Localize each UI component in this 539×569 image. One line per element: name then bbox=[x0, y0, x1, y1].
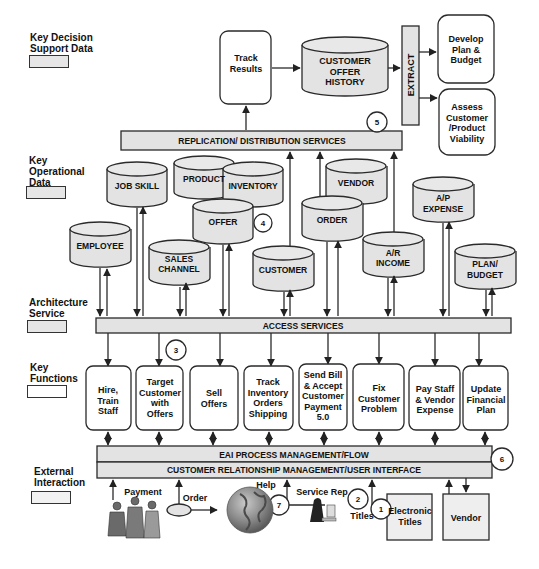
customers-people-icon bbox=[108, 497, 160, 538]
service-rep-icon bbox=[310, 498, 336, 522]
architecture-diagram: TrackResults CUSTOMEROFFERHISTORY EXTRAC… bbox=[0, 0, 539, 569]
callout-7-label: 7 bbox=[277, 501, 282, 510]
vendor-label: Vendor bbox=[451, 513, 482, 523]
callout-6-label: 6 bbox=[500, 455, 505, 464]
callout-1-label: 1 bbox=[379, 505, 384, 514]
eai-process-label: EAI PROCESS MANAGEMENT/FLOW bbox=[219, 450, 370, 460]
db-order-label: ORDER bbox=[317, 215, 348, 225]
track-results-label: TrackResults bbox=[230, 53, 263, 74]
help-label: Help bbox=[256, 480, 276, 490]
db-vendor-label: VENDOR bbox=[338, 178, 374, 188]
db-inventory-label: INVENTORY bbox=[228, 181, 277, 191]
callout-3-label: 3 bbox=[174, 346, 179, 355]
func-pay-label: Pay Staff& VendorExpense bbox=[415, 384, 455, 415]
payment-label: Payment bbox=[124, 487, 162, 497]
access-services-label: ACCESS SERVICES bbox=[263, 321, 344, 331]
db-offer-label: OFFER bbox=[209, 217, 238, 227]
titles-label: Titles bbox=[350, 511, 373, 521]
callout-5-label: 5 bbox=[375, 118, 380, 127]
func-box-sell bbox=[190, 366, 238, 430]
globe-icon bbox=[227, 487, 273, 533]
db-employee-label: EMPLOYEE bbox=[76, 241, 124, 251]
db-job-skill-label: JOB SKILL bbox=[115, 181, 159, 191]
order-label: Order bbox=[183, 493, 208, 503]
extract-label: EXTRACT bbox=[406, 53, 416, 96]
db-product-label: PRODUCT bbox=[183, 174, 226, 184]
callout-4-label: 4 bbox=[261, 219, 266, 228]
replication-services-label: REPLICATION/ DISTRIBUTION SERVICES bbox=[178, 136, 346, 146]
assess-viability-label: AssessCustomer/ProductViability bbox=[446, 102, 489, 144]
db-customer-label: CUSTOMER bbox=[259, 265, 308, 275]
crm-ui-label: CUSTOMER RELATIONSHIP MANAGEMENT/USER IN… bbox=[167, 465, 421, 475]
func-hire-label: Hire,TrainStaff bbox=[97, 385, 119, 416]
develop-plan-label: DevelopPlan &Budget bbox=[448, 34, 484, 65]
service-rep-label: Service Rep bbox=[296, 487, 348, 497]
callout-2-label: 2 bbox=[356, 495, 361, 504]
order-ellipse bbox=[167, 504, 191, 516]
